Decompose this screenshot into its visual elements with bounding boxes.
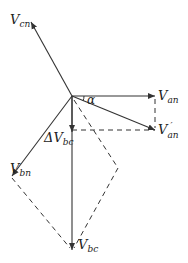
alpha-label: α (87, 93, 95, 107)
dashed-diag-left (12, 178, 70, 248)
van-prime-label: Van′ (158, 121, 179, 140)
alpha-arc (83, 96, 84, 101)
dashed-diag-upper (74, 100, 118, 168)
vbn-phasor (12, 96, 72, 176)
van-label: Van (158, 88, 179, 105)
vbc-label: Vbc (78, 237, 98, 254)
dashed-diag-right (74, 168, 118, 248)
vbn-label: Vbn (10, 161, 31, 178)
delta-vbc-label: ΔVbc (43, 130, 74, 147)
van-prime-phasor (72, 96, 155, 130)
phasor-diagram: Vcn Van Van′ ΔVbc Vbn Vbc α (0, 0, 188, 263)
vcn-label: Vcn (10, 12, 30, 29)
vcn-phasor (31, 22, 72, 96)
